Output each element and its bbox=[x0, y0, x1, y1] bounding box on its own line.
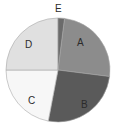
pie-slice-label-a: A bbox=[77, 38, 84, 48]
pie-slice-label-e: E bbox=[55, 4, 62, 14]
pie-slice-a bbox=[58, 18, 110, 76]
pie-slice-label-b: B bbox=[81, 100, 88, 110]
pie-slice-b bbox=[48, 70, 109, 122]
pie-slice-label-d: D bbox=[25, 40, 32, 50]
pie-slice-label-c: C bbox=[28, 96, 35, 106]
pie-slices-group bbox=[6, 18, 110, 122]
pie-chart: E A B C D bbox=[0, 0, 123, 133]
pie-chart-canvas bbox=[0, 0, 123, 133]
